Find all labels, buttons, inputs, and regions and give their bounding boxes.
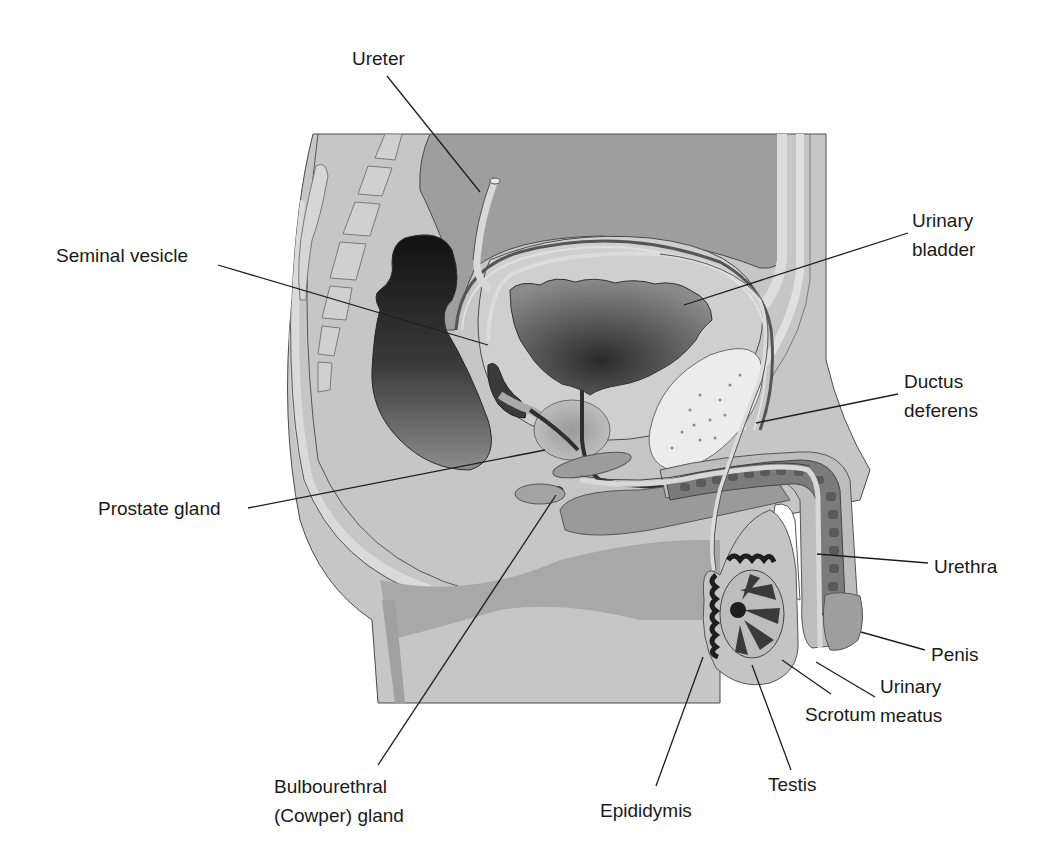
label-epididymis: Epididymis [600, 796, 692, 825]
leader-scrotum [782, 660, 831, 694]
label-ureter: Ureter [352, 44, 405, 73]
leader-urinary-meatus [816, 662, 875, 697]
label-penis: Penis [931, 640, 979, 669]
label-testis: Testis [768, 770, 817, 799]
label-urinary-meatus: Urinary meatus [880, 672, 942, 730]
leader-penis [861, 632, 925, 650]
label-urethra: Urethra [934, 552, 997, 581]
glans [823, 593, 862, 651]
label-bulbourethral-gland: Bulbourethral (Cowper) gland [274, 772, 404, 830]
anatomy-illustration [0, 0, 1062, 861]
label-scrotum: Scrotum [805, 700, 876, 729]
label-prostate-gland: Prostate gland [98, 494, 221, 523]
label-ductus-deferens: Ductus deferens [904, 367, 978, 425]
prostate-gland [534, 400, 610, 460]
label-urinary-bladder: Urinary bladder [912, 206, 975, 264]
label-seminal-vesicle: Seminal vesicle [56, 241, 188, 270]
